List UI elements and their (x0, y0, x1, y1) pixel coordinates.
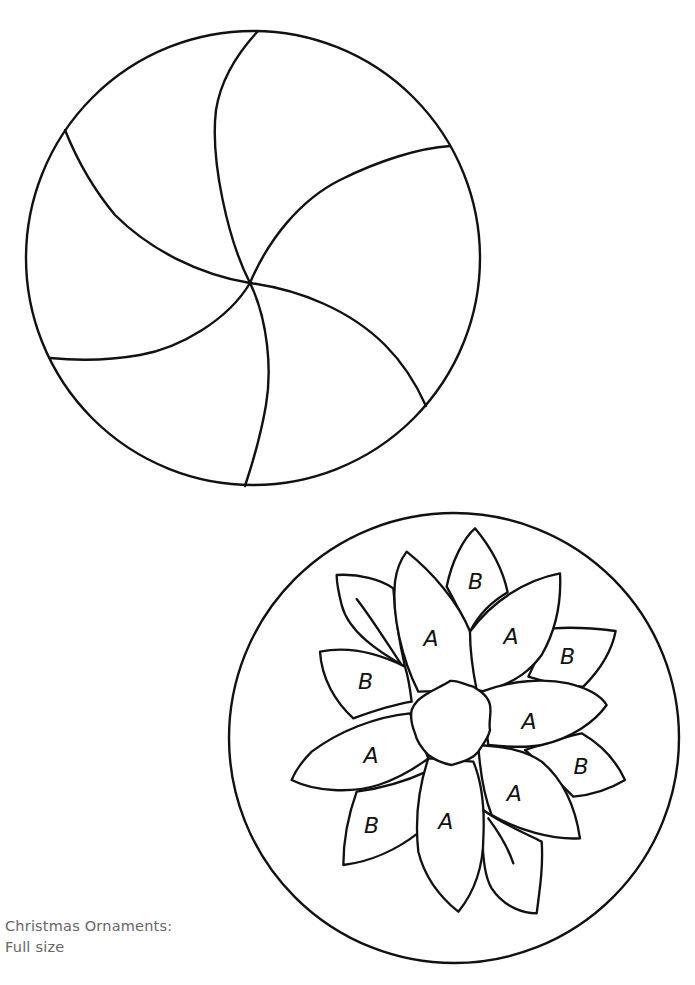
pinwheel-spoke (250, 146, 450, 283)
pinwheel-spoke (65, 130, 250, 283)
ornament-templates: B A A B B A A B A B A (0, 0, 695, 985)
pinwheel-spoke (50, 283, 250, 360)
petal-label-left-b: B (358, 669, 373, 694)
caption: Christmas Ornaments: Full size (5, 916, 172, 958)
pinwheel-ornament (26, 31, 480, 486)
flower-ornament: B A A B B A A B A B A (229, 513, 679, 963)
pinwheel-spoke (215, 31, 258, 283)
caption-subtitle: Full size (5, 937, 172, 958)
pinwheel-spoke (245, 283, 269, 486)
petal-label-lower-left-b: B (364, 813, 379, 838)
petal-label-right-a: A (519, 709, 536, 734)
petal-label-upper-a: A (421, 626, 438, 651)
petal-label-upper-right-b: B (560, 644, 575, 669)
pinwheel-spoke (250, 283, 426, 406)
petal-label-left-a: A (361, 743, 378, 768)
petal-label-right-b: B (573, 754, 588, 779)
pinwheel-outline (26, 31, 480, 485)
petal-label-top-b: B (468, 569, 483, 594)
caption-title: Christmas Ornaments: (5, 916, 172, 937)
petal-label-lower-right-a: A (505, 781, 522, 806)
petal-label-bottom-a: A (436, 809, 453, 834)
petal-label-upper-right-a: A (501, 624, 518, 649)
petal-bottom-a (417, 758, 484, 911)
